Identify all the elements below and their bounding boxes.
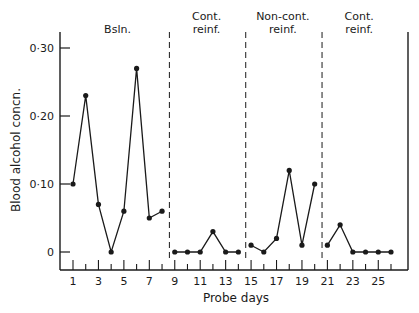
phase-labels: Bsln.Cont.reinf.Non-cont.reinf.Cont.rein… [104, 10, 374, 36]
data-point [70, 181, 75, 186]
data-point [147, 215, 152, 220]
x-tick-label: 3 [95, 275, 102, 288]
x-tick-label: 15 [244, 275, 258, 288]
data-point [83, 93, 88, 98]
x-tick-label: 9 [171, 275, 178, 288]
y-tick-label: 0·30 [30, 42, 55, 55]
data-series [70, 66, 393, 255]
data-point [159, 209, 164, 214]
data-point [287, 168, 292, 173]
data-point [223, 249, 228, 254]
x-tick-label: 19 [295, 275, 309, 288]
x-tick-label: 13 [219, 275, 233, 288]
series-line [327, 225, 391, 252]
data-point [121, 209, 126, 214]
data-point [388, 249, 393, 254]
data-point [312, 181, 317, 186]
phase-label-line2: reinf. [345, 23, 373, 36]
line-chart: 00·100·200·30135791113151719212325 Bsln.… [0, 0, 419, 313]
data-point [350, 249, 355, 254]
x-tick-label: 5 [120, 275, 127, 288]
phase-label: Cont. [192, 10, 221, 23]
phase-label-line2: reinf. [193, 23, 221, 36]
data-point [338, 222, 343, 227]
y-tick-label: 0 [47, 246, 54, 259]
data-point [274, 236, 279, 241]
data-point [134, 66, 139, 71]
data-point [299, 243, 304, 248]
x-tick-label: 23 [346, 275, 360, 288]
x-axis-label: Probe days [203, 291, 269, 305]
x-tick-label: 21 [320, 275, 334, 288]
data-point [210, 229, 215, 234]
y-tick-label: 0·10 [30, 178, 55, 191]
y-axis-label: Blood alcohol concn. [9, 88, 23, 212]
phase-label: Bsln. [104, 23, 131, 36]
x-tick-label: 11 [193, 275, 207, 288]
phase-label: Non-cont. [256, 10, 309, 23]
data-point [236, 249, 241, 254]
x-tick-label: 7 [146, 275, 153, 288]
phase-label-line2: reinf. [269, 23, 297, 36]
x-tick-label: 25 [371, 275, 385, 288]
data-point [185, 249, 190, 254]
y-tick-label: 0·20 [30, 110, 55, 123]
series-line [175, 232, 239, 252]
data-point [198, 249, 203, 254]
data-point [261, 249, 266, 254]
data-point [172, 249, 177, 254]
x-tick-label: 1 [70, 275, 77, 288]
series-line [251, 170, 315, 252]
x-tick-label: 17 [270, 275, 284, 288]
data-point [325, 243, 330, 248]
data-point [363, 249, 368, 254]
data-point [96, 202, 101, 207]
data-point [248, 243, 253, 248]
phase-label: Cont. [345, 10, 374, 23]
data-point [109, 249, 114, 254]
data-point [376, 249, 381, 254]
